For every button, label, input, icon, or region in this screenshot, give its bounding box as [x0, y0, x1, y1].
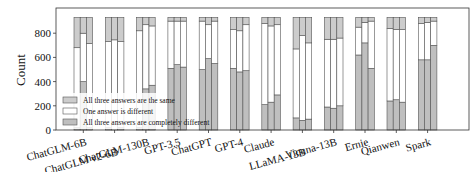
- bar-segment: [331, 108, 337, 130]
- bar-segment: [387, 17, 393, 28]
- bar-segment: [268, 17, 274, 25]
- bar-segment: [105, 17, 111, 41]
- legend-swatch: [63, 119, 77, 125]
- bar-segment: [299, 36, 305, 121]
- bar-segment: [362, 17, 368, 22]
- bar-segment: [74, 17, 80, 47]
- bar-segment: [418, 60, 424, 130]
- bar-segment: [231, 30, 237, 69]
- bar-segment: [431, 21, 437, 45]
- bar-segment: [212, 21, 218, 63]
- bar-segment: [149, 17, 155, 25]
- bar-segment: [262, 105, 268, 130]
- bar-segment: [425, 17, 431, 22]
- bar-group: [231, 17, 250, 130]
- bar-segment: [268, 26, 274, 102]
- bar-segment: [262, 24, 268, 105]
- bar-segment: [274, 17, 280, 24]
- y-axis: 0200400600800: [35, 27, 57, 136]
- bar-group: [262, 17, 281, 130]
- bar-segment: [80, 33, 86, 81]
- bar-segment: [205, 25, 211, 59]
- x-tick-label: Claude: [242, 135, 275, 155]
- bar-segment: [199, 17, 205, 21]
- bar-segment: [212, 63, 218, 130]
- bar-segment: [368, 21, 374, 68]
- bar-group: [324, 17, 343, 130]
- bar-segment: [337, 106, 343, 130]
- x-tick-label: Vicuna-13B: [284, 135, 338, 160]
- bar-group: [418, 17, 437, 130]
- bar-segment: [425, 22, 431, 60]
- bar-segment: [112, 17, 118, 39]
- bar-segment: [418, 24, 424, 60]
- legend-swatch: [63, 97, 77, 103]
- y-tick-label: 800: [35, 27, 52, 39]
- bar-group: [387, 17, 406, 130]
- bar-segment: [118, 17, 124, 41]
- bar-segment: [149, 26, 155, 85]
- bar-segment: [274, 95, 280, 130]
- bar-segment: [356, 27, 362, 55]
- y-axis-label: Count: [13, 54, 28, 86]
- x-tick-label: GPT-4: [213, 135, 245, 154]
- bar-segment: [306, 43, 312, 119]
- bar-group: [168, 17, 187, 130]
- bar-segment: [268, 102, 274, 130]
- bar-segment: [306, 119, 312, 130]
- bar-segment: [168, 17, 174, 21]
- legend-swatch: [63, 108, 77, 114]
- legend-label: One answer is different: [83, 107, 154, 116]
- legend: All three answers are the sameOne answer…: [60, 93, 210, 129]
- bar-segment: [237, 17, 243, 30]
- bar-segment: [137, 17, 143, 30]
- bar-segment: [362, 43, 368, 130]
- bar-segment: [86, 17, 92, 43]
- bar-segment: [418, 17, 424, 23]
- legend-label: All three answers are the same: [83, 96, 176, 105]
- bar-segment: [393, 100, 399, 130]
- bar-segment: [431, 17, 437, 21]
- bar-segment: [399, 30, 405, 103]
- bar-segment: [299, 120, 305, 130]
- x-tick-label: ChatGLM-130B: [77, 135, 150, 165]
- bar-segment: [356, 17, 362, 27]
- x-tick-label: Spark: [404, 135, 432, 153]
- bar-segment: [368, 68, 374, 130]
- bar-segment: [399, 17, 405, 29]
- bar-segment: [324, 39, 330, 107]
- bar-segment: [199, 21, 205, 69]
- bar-segment: [274, 25, 280, 95]
- bar-segment: [143, 25, 149, 89]
- bar-segment: [306, 17, 312, 42]
- bar-segment: [205, 17, 211, 24]
- bar-segment: [243, 17, 249, 24]
- bar-segment: [180, 21, 186, 67]
- stacked-bar-chart: 0200400600800 Count ChatGLM-6BChatGLM v2…: [0, 0, 472, 172]
- bar-group: [356, 17, 375, 130]
- bar-group: [293, 17, 312, 130]
- bar-segment: [231, 68, 237, 130]
- bar-segment: [237, 31, 243, 72]
- bar-segment: [331, 39, 337, 108]
- bar-segment: [168, 21, 174, 68]
- bar-segment: [293, 17, 299, 48]
- bar-segment: [362, 22, 368, 43]
- bar-segment: [299, 17, 305, 35]
- bar-segment: [356, 55, 362, 130]
- bar-segment: [293, 49, 299, 118]
- y-tick-label: 0: [46, 124, 52, 136]
- bar-segment: [387, 101, 393, 130]
- bar-segment: [425, 60, 431, 130]
- bar-segment: [368, 17, 374, 21]
- bar-segment: [143, 17, 149, 24]
- bar-segment: [431, 45, 437, 130]
- x-axis: ChatGLM-6BChatGLM v2-6BChatGLM-130BGPT-3…: [25, 130, 433, 172]
- bar-segment: [399, 102, 405, 130]
- bar-segment: [324, 107, 330, 130]
- bar-segment: [331, 17, 337, 39]
- bar-segment: [174, 21, 180, 65]
- bar-segment: [80, 17, 86, 33]
- bar-segment: [393, 17, 399, 29]
- bar-segment: [324, 17, 330, 39]
